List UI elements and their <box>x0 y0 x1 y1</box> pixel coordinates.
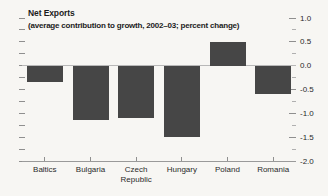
chart-title: Net Exports <box>28 8 75 18</box>
chart-subtitle: (average contribution to growth, 2002–03… <box>28 21 239 30</box>
y-axis-minor-tick-right <box>292 77 296 78</box>
y-axis-tick-right <box>289 18 296 19</box>
x-axis-label: Czech Republic <box>110 165 162 184</box>
y-axis-label: -0.5 <box>300 85 314 94</box>
y-axis-minor-tick-right <box>292 53 296 54</box>
x-axis-label: Bulgaria <box>65 165 117 175</box>
y-axis-label: -2.0 <box>300 157 314 166</box>
x-axis-label: Romania <box>247 165 299 175</box>
y-axis-tick-left <box>19 125 25 126</box>
y-axis-tick-left <box>19 113 25 114</box>
y-axis-tick-left <box>19 149 25 150</box>
y-axis-tick-left <box>19 137 25 138</box>
y-axis-minor-tick-right <box>292 125 296 126</box>
y-axis-tick-right <box>289 113 296 114</box>
y-axis-minor-tick-right <box>292 29 296 30</box>
y-axis-label: 0.5 <box>300 37 311 46</box>
x-axis-tick <box>44 157 45 161</box>
bar <box>210 42 246 66</box>
x-axis-label: Hungary <box>156 165 208 175</box>
y-axis-tick-left <box>19 41 25 42</box>
y-axis-tick-left <box>19 89 25 90</box>
x-axis-tick <box>136 157 137 161</box>
y-axis-minor-tick-right <box>292 149 296 150</box>
y-axis-label: 1.0 <box>300 14 311 23</box>
y-axis-label: -1.0 <box>300 109 314 118</box>
y-axis-label: -1.5 <box>300 133 314 142</box>
bar <box>255 66 291 95</box>
bar <box>73 66 109 121</box>
net-exports-bar-chart: Net Exports (average contribution to gro… <box>0 0 328 196</box>
y-axis-tick-left <box>19 29 25 30</box>
x-axis-tick <box>90 157 91 161</box>
y-axis-tick-left <box>19 101 25 102</box>
bar <box>164 66 200 138</box>
bar <box>118 66 154 118</box>
y-axis-minor-tick-right <box>292 101 296 102</box>
y-axis-tick-left <box>19 18 25 19</box>
x-axis-tick <box>181 157 182 161</box>
y-axis-label: 0.0 <box>300 61 311 70</box>
x-axis-tick <box>273 157 274 161</box>
x-axis-tick <box>227 157 228 161</box>
x-axis-label: Poland <box>202 165 254 175</box>
bar <box>27 66 63 83</box>
x-axis-label: Baltics <box>19 165 71 175</box>
y-axis-tick-left <box>19 53 25 54</box>
y-axis-tick-right <box>289 41 296 42</box>
y-axis-tick-right <box>289 137 296 138</box>
y-axis-tick-left <box>19 77 25 78</box>
x-axis-line <box>22 161 296 162</box>
